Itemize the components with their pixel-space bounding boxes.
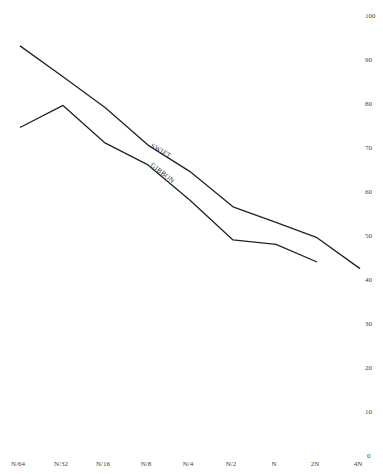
- y-tick-label: 90: [365, 56, 373, 64]
- y-tick-label: 0: [367, 452, 371, 460]
- x-tick-label: N/4: [183, 460, 194, 468]
- y-tick-label: 80: [365, 100, 373, 108]
- x-tick-label: N: [271, 460, 276, 468]
- series-lines: [20, 46, 360, 269]
- y-tick-label: 40: [365, 276, 373, 284]
- x-tick-label: N/64: [11, 460, 26, 468]
- series-label-swift: SWIFT: [149, 142, 173, 160]
- x-tick-label: N/2: [226, 460, 237, 468]
- x-tick-label: 2N: [311, 460, 320, 468]
- y-axis-ticks: 0102030405060708090100: [365, 12, 376, 461]
- series-line-swift: [20, 46, 360, 269]
- y-tick-label: 70: [365, 144, 373, 152]
- y-tick-label: 30: [365, 320, 373, 328]
- y-tick-label: 60: [365, 188, 373, 196]
- x-tick-label: 4N: [354, 460, 363, 468]
- y-tick-label: 50: [365, 232, 373, 240]
- series-line-gibbon: [20, 105, 317, 262]
- line-chart: 0102030405060708090100 N/64N/32N/16N/8N/…: [0, 0, 383, 474]
- y-tick-label: 10: [365, 408, 373, 416]
- x-axis-ticks: N/64N/32N/16N/8N/4N/2N2N4N: [11, 460, 362, 468]
- x-tick-label: N/32: [54, 460, 69, 468]
- y-tick-label: 20: [365, 364, 373, 372]
- x-tick-label: N/16: [96, 460, 111, 468]
- y-tick-label: 100: [365, 12, 376, 20]
- x-tick-label: N/8: [141, 460, 152, 468]
- series-label-gibbon: GIBBON: [149, 161, 176, 185]
